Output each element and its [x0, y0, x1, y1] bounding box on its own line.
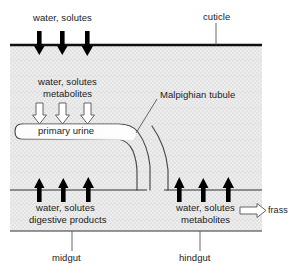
hindgut-influx-label-line1: water, solutes — [176, 202, 235, 214]
midgut-label: midgut — [52, 252, 81, 264]
tubule-influx-label-line1: water, solutes — [38, 76, 97, 88]
insect-excretion-diagram: water, solutes cuticle water, solutes me… — [0, 0, 294, 273]
malpighian-tubule-label: Malpighian tubule — [160, 89, 235, 101]
frass-label: frass — [268, 205, 288, 217]
primary-urine-label: primary urine — [38, 125, 94, 137]
hindgut-label: hindgut — [179, 252, 211, 264]
tubule-influx-arrows — [33, 103, 95, 124]
cuticle-influx-label: water, solutes — [33, 12, 92, 24]
diagram-canvas — [0, 0, 294, 273]
hindgut-influx-label-line2: metabolites — [181, 214, 230, 226]
midgut-influx-label-line2: digestive products — [29, 214, 106, 226]
midgut-influx-label-line1: water, solutes — [36, 202, 95, 214]
cuticle-label: cuticle — [203, 11, 230, 23]
tubule-influx-label-line2: metabolites — [43, 88, 92, 100]
